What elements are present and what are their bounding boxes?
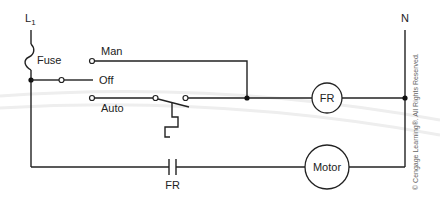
motor-label: Motor xyxy=(313,161,341,173)
fr-normally-open-contact-icon xyxy=(169,159,176,175)
fr-contact-label: FR xyxy=(165,179,180,191)
left-rail-label: L1 xyxy=(25,12,36,27)
selector-off-label: Off xyxy=(99,74,114,86)
fuse-label: Fuse xyxy=(37,54,61,66)
junction-node xyxy=(402,95,407,100)
selector-man-label: Man xyxy=(101,45,122,57)
ladder-diagram: L1 Fuse Off Man Auto FR N FR xyxy=(0,0,440,199)
junction-node xyxy=(244,95,249,100)
fuse-icon xyxy=(25,44,34,70)
selector-auto-label: Auto xyxy=(101,102,124,114)
motor-load: Motor xyxy=(305,145,349,189)
fr-coil-label: FR xyxy=(320,92,335,104)
fr-coil: FR xyxy=(312,83,342,113)
selector-common-terminal xyxy=(59,78,64,83)
selector-man-terminal xyxy=(90,59,95,64)
right-rail-label: N xyxy=(401,12,409,24)
copyright-notice: © Cengage Learning®. All Rights Reserved… xyxy=(412,53,420,190)
selector-auto-terminal xyxy=(90,96,95,101)
float-switch-icon xyxy=(153,96,189,138)
